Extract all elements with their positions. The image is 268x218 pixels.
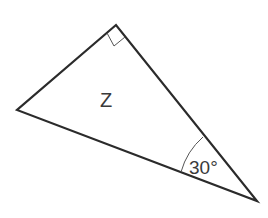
diagram-canvas: Z 30° (0, 0, 268, 218)
angle-label: 30° (189, 157, 218, 178)
right-angle-marker-icon (107, 33, 125, 46)
triangle-diagram: Z 30° (0, 0, 268, 218)
triangle-label: Z (100, 89, 112, 111)
triangle-shape (17, 25, 257, 201)
